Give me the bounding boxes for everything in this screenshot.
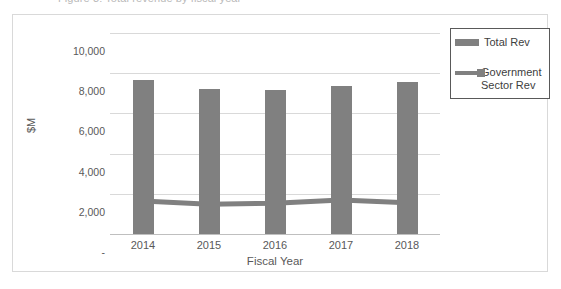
y-axis-title: $M xyxy=(25,118,37,133)
clipped-text-strip: Figure 3: Total revenue by fiscal year xyxy=(0,0,561,12)
bar-total-rev xyxy=(397,82,418,234)
bar-total-rev xyxy=(133,80,154,234)
y-axis-tick-label: 8,000 xyxy=(47,86,105,97)
legend-bar-swatch-icon xyxy=(455,39,479,46)
y-axis-tick-label: 2,000 xyxy=(47,207,105,218)
chart-frame: $M 10,0008,0006,0004,0002,000- 201420152… xyxy=(12,14,548,272)
y-axis-tick-label: 6,000 xyxy=(47,126,105,137)
y-axis-tick-label: - xyxy=(47,247,105,258)
x-axis-tick-label: 2015 xyxy=(176,238,242,252)
y-axis-tick-label: 4,000 xyxy=(47,166,105,177)
gridline xyxy=(110,73,440,74)
x-axis-tick-label: 2016 xyxy=(242,238,308,252)
bar-total-rev xyxy=(199,89,220,234)
bar-total-rev xyxy=(265,90,286,234)
legend-entry-government-sector-rev: Government Sector Rev xyxy=(455,66,542,91)
bar-total-rev xyxy=(331,86,352,234)
clipped-caption-text: Figure 3: Total revenue by fiscal year xyxy=(58,0,241,4)
x-axis-tick-labels: 20142015201620172018 xyxy=(110,238,440,254)
y-axis-tick-labels: 10,0008,0006,0004,0002,000- xyxy=(42,33,105,234)
x-axis-tick-label: 2017 xyxy=(308,238,374,252)
legend-line-swatch-icon xyxy=(455,71,481,75)
gridline xyxy=(110,234,440,235)
chart-legend: Total Rev Government Sector Rev xyxy=(450,28,550,99)
legend-entry-total-rev: Total Rev xyxy=(455,36,530,49)
gridline xyxy=(110,33,440,34)
legend-label-government-sector-rev: Government Sector Rev xyxy=(481,66,542,91)
y-axis-tick-label: 10,000 xyxy=(47,46,105,57)
plot-area xyxy=(110,33,440,234)
x-axis-title: Fiscal Year xyxy=(110,255,440,267)
legend-label-total-rev: Total Rev xyxy=(484,36,530,49)
x-axis-tick-label: 2014 xyxy=(110,238,176,252)
x-axis-tick-label: 2018 xyxy=(374,238,440,252)
